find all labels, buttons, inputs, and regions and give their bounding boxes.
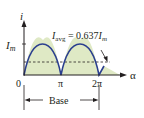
x-tick-0: 0 — [16, 78, 21, 89]
x-axis-arrow-icon — [120, 73, 127, 78]
base-label: Base — [49, 95, 69, 106]
base-right-arrow-icon — [93, 98, 99, 102]
x-tick-2pi: 2π — [92, 78, 102, 89]
base-left-arrow-icon — [25, 98, 31, 102]
x-tick-pi: π — [58, 78, 63, 89]
avg-pointer-arrow-icon — [104, 56, 108, 62]
y-axis-label: i — [20, 10, 23, 22]
peak-label: Im — [5, 39, 16, 53]
rectified-wave-diagram: i Im Iavg = 0.637Im α 0 π 2π Base — [0, 0, 144, 118]
x-axis-label: α — [130, 69, 136, 81]
